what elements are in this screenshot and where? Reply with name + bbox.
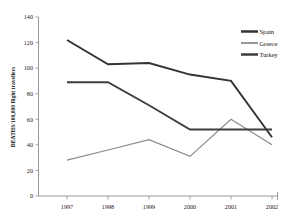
- x-tick-label: 1998: [102, 203, 114, 210]
- y-axis-title: DEATHS/100,000 flight travellers: [10, 66, 16, 147]
- legend-label-greece: Greece: [260, 40, 278, 47]
- y-tick-label: 60: [27, 116, 33, 123]
- x-tick-label: 1997: [61, 203, 73, 210]
- x-tick-label: 2001: [225, 203, 237, 210]
- x-tick-label: 2000: [184, 203, 196, 210]
- y-tick-label: 40: [27, 141, 33, 148]
- y-tick-label: 80: [27, 90, 33, 97]
- x-tick-label: 2002: [266, 203, 278, 210]
- chart-legend: Spain Greece Turkey: [241, 28, 279, 58]
- y-tick-label: 0: [30, 192, 33, 199]
- x-tick-label: 1999: [143, 203, 155, 210]
- y-tick-label: 140: [24, 13, 33, 20]
- chart-canvas: 140 120 100 80 60 40 20 0 1997 1998 1999…: [0, 0, 299, 217]
- y-tick-label: 100: [24, 64, 33, 71]
- line-chart-figure: 140 120 100 80 60 40 20 0 1997 1998 1999…: [0, 0, 299, 217]
- y-tick-label: 120: [24, 39, 33, 46]
- y-tick-label: 20: [27, 167, 33, 174]
- legend-label-spain: Spain: [260, 28, 275, 35]
- legend-label-turkey: Turkey: [260, 51, 279, 58]
